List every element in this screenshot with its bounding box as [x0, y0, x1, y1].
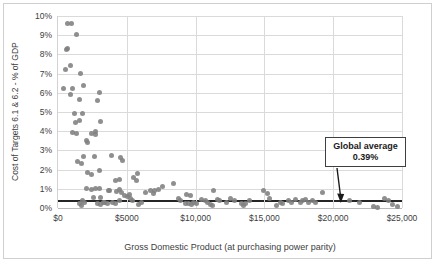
- gridline: [127, 16, 128, 208]
- y-tick-label: 0%: [22, 203, 52, 213]
- y-tick-label: 6%: [22, 88, 52, 98]
- data-point: [77, 97, 82, 102]
- data-point: [97, 90, 102, 95]
- data-point: [390, 202, 395, 207]
- data-point: [70, 86, 75, 91]
- data-point: [80, 111, 85, 116]
- data-point: [91, 195, 96, 200]
- data-point: [72, 111, 77, 116]
- gridline: [196, 16, 197, 208]
- x-axis-line: [58, 208, 402, 209]
- data-point: [188, 193, 193, 198]
- x-tick-label: $20,000: [303, 213, 363, 223]
- data-point: [65, 46, 70, 51]
- data-point: [92, 154, 97, 159]
- data-point: [357, 200, 362, 205]
- gridline: [58, 170, 402, 171]
- callout-value: 0.39%: [353, 152, 379, 163]
- gridline: [264, 16, 265, 208]
- y-tick-label: 2%: [22, 165, 52, 175]
- y-tick-label: 4%: [22, 126, 52, 136]
- gridline: [333, 16, 334, 208]
- data-point: [97, 186, 102, 191]
- y-tick-label: 1%: [22, 184, 52, 194]
- x-tick-label: $0: [28, 213, 88, 223]
- data-point: [81, 83, 86, 88]
- plot-area: [58, 16, 402, 208]
- data-point: [134, 178, 139, 183]
- scatter-chart: Cost of Targets 6.1 & 6.2 - % of GDP 0%1…: [0, 0, 435, 266]
- data-point: [84, 186, 89, 191]
- data-point: [79, 161, 84, 166]
- y-tick-label: 10%: [22, 11, 52, 21]
- data-point: [211, 188, 216, 193]
- x-tick-label: $5000: [97, 213, 157, 223]
- data-point: [89, 172, 94, 177]
- data-point: [79, 203, 84, 208]
- data-point: [63, 67, 68, 72]
- data-point: [280, 201, 285, 206]
- y-tick-label: 5%: [22, 107, 52, 117]
- gridline: [58, 54, 402, 55]
- x-tick-label: $10,000: [166, 213, 226, 223]
- data-point: [232, 198, 237, 203]
- y-tick-label: 3%: [22, 145, 52, 155]
- gridline: [58, 93, 402, 94]
- global-average-callout: Global average 0.39%: [325, 137, 406, 167]
- gridline: [58, 74, 402, 75]
- data-point: [77, 118, 82, 123]
- gridline: [58, 16, 402, 17]
- data-point: [69, 21, 74, 26]
- gridline: [58, 35, 402, 36]
- data-point: [93, 132, 98, 137]
- x-axis-tick-labels: $0$5000$10,000$15,000$20,000$25,000: [58, 213, 402, 225]
- data-point: [109, 153, 114, 158]
- data-point: [130, 198, 135, 203]
- data-point: [224, 200, 229, 205]
- data-point: [347, 198, 352, 203]
- data-point: [74, 32, 79, 37]
- data-point: [85, 140, 90, 145]
- data-point: [375, 205, 380, 210]
- data-point: [68, 92, 73, 97]
- data-point: [106, 188, 111, 193]
- y-axis-tick-labels: 0%1%2%3%4%5%6%7%8%9%10%: [26, 16, 56, 208]
- data-point: [120, 158, 125, 163]
- callout-title: Global average: [333, 141, 398, 152]
- data-point: [194, 201, 199, 206]
- data-point: [68, 63, 73, 68]
- gridline: [58, 112, 402, 113]
- data-point: [81, 154, 86, 159]
- data-point: [113, 201, 118, 206]
- gridline: [58, 131, 402, 132]
- data-point: [117, 177, 122, 182]
- data-point: [247, 198, 252, 203]
- x-axis-title: Gross Domestic Product (at purchasing po…: [58, 242, 402, 252]
- data-point: [74, 131, 79, 136]
- data-point: [171, 181, 176, 186]
- y-tick-label: 7%: [22, 69, 52, 79]
- data-point: [217, 198, 222, 203]
- x-tick-label: $15,000: [234, 213, 294, 223]
- data-point: [135, 171, 140, 176]
- data-point: [78, 71, 83, 76]
- data-point: [98, 119, 103, 124]
- x-tick-label: $25,000: [372, 213, 432, 223]
- data-point: [395, 204, 400, 209]
- data-point: [139, 200, 144, 205]
- data-point: [61, 86, 66, 91]
- y-axis-title: Cost of Targets 6.1 & 6.2 - % of GDP: [8, 16, 22, 208]
- y-tick-label: 8%: [22, 49, 52, 59]
- data-point: [95, 98, 100, 103]
- y-tick-label: 9%: [22, 30, 52, 40]
- data-point: [97, 168, 102, 173]
- data-point: [210, 203, 215, 208]
- data-point: [313, 200, 318, 205]
- data-point: [320, 190, 325, 195]
- gridline: [402, 16, 403, 208]
